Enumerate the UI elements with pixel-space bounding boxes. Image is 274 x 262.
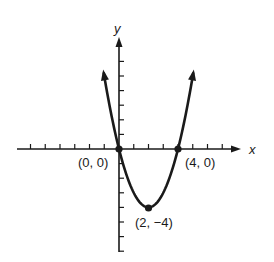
curve-arrows <box>101 69 196 81</box>
vertex-point <box>145 204 152 211</box>
root-point <box>174 145 181 152</box>
parabola-graph: x y (0, 0) (4, 0) (2, −4) <box>0 0 274 262</box>
vertex-label: (2, −4) <box>135 215 173 230</box>
root-label: (4, 0) <box>185 155 215 170</box>
x-axis <box>17 144 236 149</box>
parabola-curve <box>104 73 193 207</box>
origin-label: (0, 0) <box>78 155 108 170</box>
y-axis-label: y <box>113 21 122 36</box>
origin-point <box>115 145 122 152</box>
x-axis-label: x <box>248 142 256 157</box>
